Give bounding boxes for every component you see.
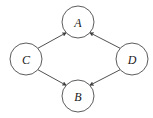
node-d-label: D	[127, 53, 137, 67]
edge-c-to-a	[38, 33, 66, 49]
node-c[interactable]: C	[10, 43, 42, 75]
node-d[interactable]: D	[116, 43, 148, 75]
edge-c-to-b	[38, 70, 66, 86]
node-b[interactable]: B	[62, 80, 94, 112]
edge-d-to-a	[90, 33, 120, 49]
node-b-label: B	[74, 90, 82, 104]
node-c-label: C	[22, 53, 31, 67]
node-a-label: A	[73, 16, 82, 30]
graph-canvas: A C D B	[0, 0, 153, 118]
node-a[interactable]: A	[62, 6, 94, 38]
graph-diagram: A C D B	[0, 0, 153, 118]
edge-group	[38, 33, 120, 86]
edge-d-to-b	[90, 70, 120, 86]
